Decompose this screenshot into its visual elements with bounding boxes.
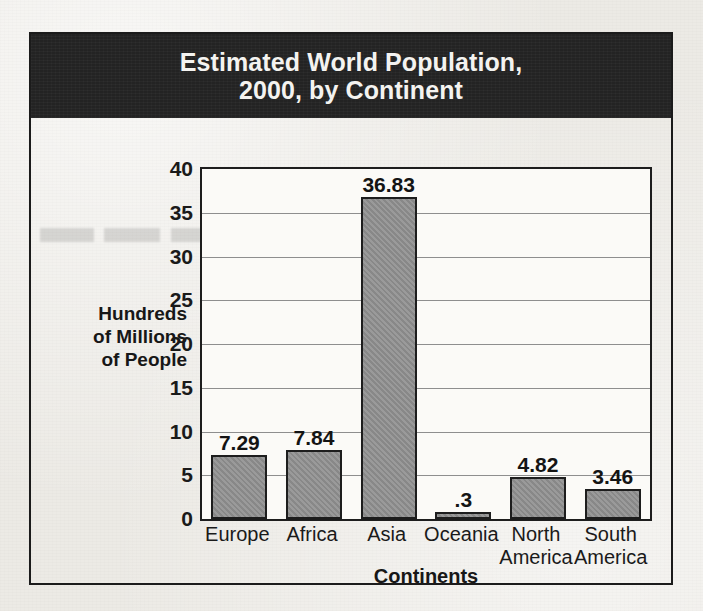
gridline [202, 344, 650, 345]
bar: 7.84 [286, 450, 342, 519]
y-tick-label: 40 [170, 157, 193, 181]
bar: 7.29 [211, 455, 267, 519]
chart-title: Estimated World Population, 2000, by Con… [180, 48, 523, 104]
chart-title-line-1: Estimated World Population, [180, 48, 523, 76]
x-category-label-line: Europe [200, 523, 275, 546]
chart-body: Hundreds of Millions of People 051015202… [31, 118, 671, 583]
bar-value-label: 7.84 [294, 426, 335, 450]
bar: 4.82 [510, 477, 566, 519]
bar-value-label: 7.29 [219, 431, 260, 455]
x-category-label: SouthAmerica [573, 523, 648, 569]
bar-value-label: 4.82 [518, 453, 559, 477]
y-tick-label: 15 [170, 376, 193, 400]
gridline [202, 432, 650, 433]
title-banner: Estimated World Population, 2000, by Con… [31, 34, 671, 118]
gridline [202, 213, 650, 214]
x-category-label-line: Asia [349, 523, 424, 546]
x-category-label: Oceania [424, 523, 499, 546]
x-axis-title: Continents [200, 565, 652, 588]
gridline [202, 475, 650, 476]
y-tick-label: 5 [181, 463, 193, 487]
plot-inner: 05101520253035407.297.8436.83.34.823.46 [202, 169, 650, 519]
gridline [202, 257, 650, 258]
bar: 3.46 [585, 489, 641, 519]
plot-area: 05101520253035407.297.8436.83.34.823.46 [200, 167, 652, 521]
x-category-label-line: South [573, 523, 648, 546]
x-axis-category-labels: EuropeAfricaAsiaOceaniaNorthAmericaSouth… [200, 523, 652, 567]
x-category-label: Europe [200, 523, 275, 546]
y-tick-label: 0 [181, 507, 193, 531]
y-tick-label: 10 [170, 420, 193, 444]
x-category-label: Africa [275, 523, 350, 546]
bar-value-label: .3 [455, 488, 473, 512]
x-category-label: Asia [349, 523, 424, 546]
page-background: Estimated World Population, 2000, by Con… [0, 0, 703, 611]
x-category-label: NorthAmerica [499, 523, 574, 569]
y-axis-title-line-3: of People [39, 348, 187, 371]
gridline [202, 388, 650, 389]
y-axis-title: Hundreds of Millions of People [39, 302, 187, 372]
chart-title-line-2: 2000, by Continent [180, 76, 523, 104]
y-axis-title-line-1: Hundreds [39, 302, 187, 325]
x-category-label-line: North [499, 523, 574, 546]
y-tick-label: 30 [170, 245, 193, 269]
chart-figure: Estimated World Population, 2000, by Con… [29, 32, 673, 585]
x-category-label-line: Africa [275, 523, 350, 546]
bar: 36.83 [361, 197, 417, 519]
y-axis-title-line-2: of Millions [39, 325, 187, 348]
y-tick-label: 35 [170, 201, 193, 225]
y-tick-label: 25 [170, 288, 193, 312]
gridline [202, 300, 650, 301]
y-tick-label: 20 [170, 332, 193, 356]
bar-value-label: 36.83 [362, 173, 415, 197]
x-category-label-line: Oceania [424, 523, 499, 546]
bar-value-label: 3.46 [592, 465, 633, 489]
bar: .3 [435, 512, 491, 519]
